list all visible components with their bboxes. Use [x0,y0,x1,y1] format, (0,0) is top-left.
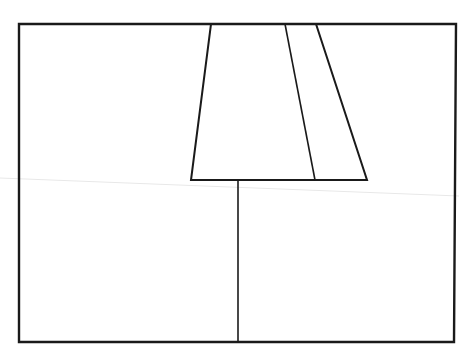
diagram-canvas [0,0,459,362]
inner-slant-line [285,24,315,180]
trapezoid-shape [191,24,367,180]
